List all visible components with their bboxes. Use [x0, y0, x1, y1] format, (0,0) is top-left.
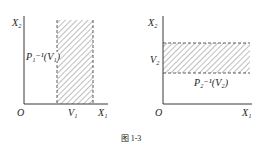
left-y-axis-label: X₂ [12, 18, 22, 28]
right-region-label: P₂⁻¹(V₂) [194, 78, 228, 88]
left-x-tick-label: V₁ [68, 108, 78, 118]
left-hatched-region [57, 20, 93, 104]
right-hatched-region [163, 43, 250, 73]
left-origin-label: O [17, 108, 24, 118]
right-panel [163, 16, 252, 104]
right-origin-label: O [155, 108, 162, 118]
right-y-tick-label: V₂ [150, 55, 160, 65]
left-x-axis-label: X₁ [98, 108, 108, 118]
figure-caption: 图 1-3 [0, 132, 262, 143]
right-x-axis-label: X₁ [242, 108, 252, 118]
right-y-axis-label: X₂ [148, 18, 158, 28]
left-region-label: P₁⁻¹(V₁) [26, 52, 60, 62]
figure-canvas [0, 0, 262, 149]
